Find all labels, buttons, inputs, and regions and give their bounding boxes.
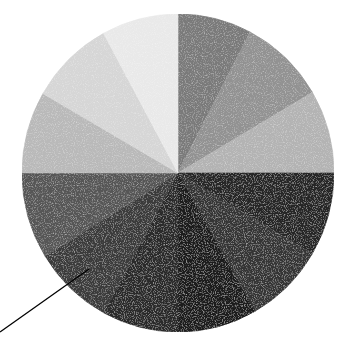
pie-slices xyxy=(22,14,334,332)
annotation-pointer-line xyxy=(0,269,89,332)
pie-chart xyxy=(0,0,346,352)
